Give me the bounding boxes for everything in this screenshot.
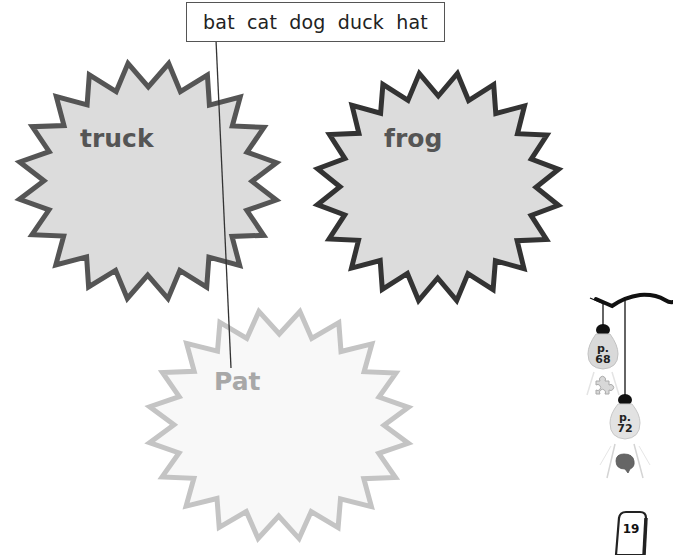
page-number: 19	[618, 522, 644, 536]
word-bat[interactable]: bat	[203, 11, 235, 33]
starburst-label-truck: truck	[80, 124, 154, 153]
brain-icon	[616, 454, 634, 473]
word-cat[interactable]: cat	[247, 11, 277, 33]
starburst-pat[interactable]	[150, 311, 409, 538]
starburst-label-frog: frog	[384, 124, 442, 153]
bulb-ref-p72: p. 72	[616, 412, 634, 434]
word-hat[interactable]: hat	[396, 11, 428, 33]
word-bank-box: bat cat dog duck hat	[186, 2, 445, 42]
word-duck[interactable]: duck	[338, 11, 384, 33]
bulb-ref-p68: p. 68	[594, 343, 612, 365]
bulb-ref-page: 68	[594, 354, 612, 365]
worksheet-canvas	[0, 0, 673, 555]
puzzle-icon	[596, 376, 614, 394]
starburst-truck[interactable]	[20, 63, 277, 298]
starburst-frog[interactable]	[317, 73, 558, 300]
word-dog[interactable]: dog	[289, 11, 325, 33]
starburst-label-pat: Pat	[214, 367, 260, 396]
bulb-ref-page: 72	[616, 423, 634, 434]
